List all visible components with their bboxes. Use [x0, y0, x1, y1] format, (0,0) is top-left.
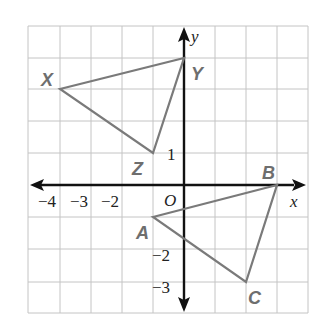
origin-label: O	[164, 191, 176, 210]
y-tick-label: −3	[152, 278, 170, 297]
x-axis-label: x	[289, 192, 298, 211]
vertex-label-b: B	[262, 163, 275, 183]
vertex-label-c: C	[248, 288, 262, 308]
y-tick-label: 1	[167, 145, 176, 164]
vertex-label-a: A	[135, 223, 149, 243]
y-axis-label: y	[189, 27, 199, 46]
coordinate-plane: y x O −4 −3 −2 1 −2 −3 X Y Z A B C	[0, 0, 327, 336]
vertex-label-y: Y	[191, 64, 205, 84]
x-tick-label: −2	[101, 192, 119, 211]
vertex-label-x: X	[40, 70, 54, 90]
x-tick-label: −4	[38, 192, 57, 211]
vertex-label-z: Z	[131, 159, 144, 179]
x-tick-label: −3	[70, 192, 88, 211]
y-tick-label: −2	[152, 246, 170, 265]
x-axis-right-arrow-icon	[292, 179, 306, 191]
